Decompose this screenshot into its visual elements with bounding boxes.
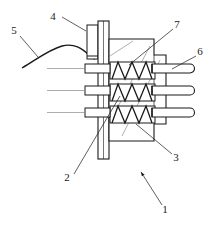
- leader-4: [62, 17, 86, 31]
- rod-stub-bottom: [85, 108, 110, 117]
- callout-label-5: 5: [11, 24, 17, 36]
- rod-6-bottom: [152, 108, 195, 117]
- rod-stub-top: [85, 64, 110, 73]
- patent-figure: 4 5 7 6 3 2 1: [0, 0, 216, 228]
- cable-5: [22, 45, 95, 68]
- connector-block-4: [87, 25, 98, 59]
- rod-6-middle: [152, 86, 195, 95]
- spring-channel-bottom: [110, 106, 155, 123]
- leader-1: [141, 172, 162, 205]
- callout-label-1: 1: [162, 203, 168, 215]
- rod-stub-middle: [85, 86, 110, 95]
- spring-channel-top: [110, 62, 155, 79]
- spring-channel-middle: [110, 84, 155, 101]
- callout-label-2: 2: [64, 171, 70, 183]
- callout-label-3: 3: [173, 151, 179, 163]
- leader-5: [20, 36, 38, 57]
- callout-label-7: 7: [174, 18, 180, 30]
- callout-label-4: 4: [50, 10, 56, 22]
- centerlines: [47, 69, 85, 113]
- callout-label-6: 6: [197, 45, 203, 57]
- technical-drawing-canvas: 4 5 7 6 3 2 1: [0, 0, 216, 228]
